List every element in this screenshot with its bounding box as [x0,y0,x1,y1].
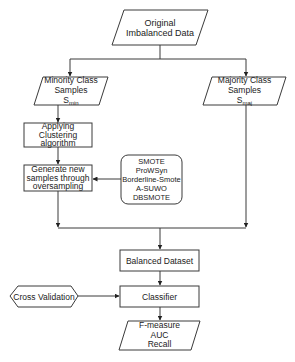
clustering-label: Applying Clustering algorithm [24,122,92,148]
majority-symbol: Smaj [237,95,252,108]
method-a-suwo: A-SUWO [136,184,167,193]
balanced-dataset-text: Balanced Dataset [126,256,193,266]
minority-line-1: Minority Class [44,75,97,85]
cross-validation-label: Cross Validation [10,286,78,307]
classifier-label: Classifier [120,286,199,307]
method-dbsmote: DBSMOTE [133,193,170,202]
majority-class-label: Majority Class Samples Smaj [203,77,286,105]
method-prowsyn: ProWSyn [136,166,168,175]
minority-symbol: Smin [63,95,78,108]
classifier-text: Classifier [142,292,177,302]
original-line-1: Original [144,18,175,28]
generate-line-3: oversampling [33,182,84,191]
majority-symbol-sub: maj [243,100,253,106]
majority-line-2: Samples [228,85,261,95]
cross-validation-text: Cross Validation [13,292,74,302]
clustering-line-3: algorithm [41,139,76,148]
metrics-label: F-measure AUC Recall [119,321,200,350]
method-smote: SMOTE [138,157,165,166]
balanced-dataset-label: Balanced Dataset [120,250,199,271]
methods-label: SMOTE ProWSyn Borderline-Smote A-SUWO DB… [121,155,182,204]
original-line-2: Imbalanced Data [126,28,194,38]
majority-line-1: Majority Class [218,75,271,85]
minority-symbol-sub: min [69,100,79,106]
minority-line-2: Samples [54,85,87,95]
generate-label: Generate new samples through oversamplin… [24,165,92,191]
metric-recall: Recall [148,340,172,350]
minority-class-label: Minority Class Samples Smin [34,77,108,105]
method-borderline-smote: Borderline-Smote [122,175,180,184]
original-data-label: Original Imbalanced Data [112,10,208,45]
